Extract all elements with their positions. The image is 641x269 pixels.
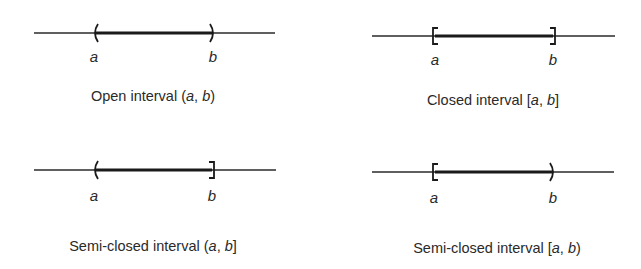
endpoint-label-a: a	[430, 189, 438, 206]
number-line-semi-closed-left	[0, 0, 641, 269]
caption-semi-closed-left: Semi-closed interval [a, b)	[413, 240, 581, 256]
endpoint-label-b: b	[549, 189, 557, 206]
panel-semi-closed-left: a b Semi-closed interval [a, b)	[0, 0, 641, 269]
